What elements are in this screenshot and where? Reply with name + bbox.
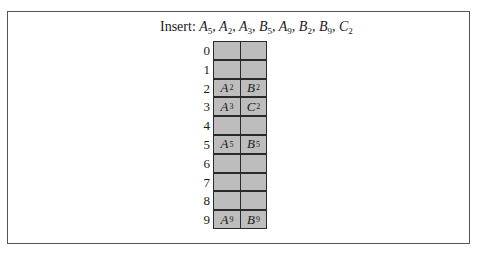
slot-2 [240, 60, 267, 79]
bucket-row: A5B5 [213, 136, 267, 155]
slot-1 [213, 191, 241, 210]
bucket-index: 5 [196, 136, 210, 155]
insert-sequence: A5, A2, A3, B5, A9, B2, B9, C2 [199, 19, 353, 34]
slot-2: C2 [240, 97, 267, 116]
bucket-row [213, 174, 267, 193]
slot-2 [240, 41, 267, 60]
sequence-key: A3, [236, 19, 256, 34]
sequence-key: A2, [216, 19, 236, 34]
slot-2: B2 [240, 79, 267, 98]
bucket-index: 7 [196, 174, 210, 193]
slot-1 [213, 60, 241, 79]
sequence-key: A5, [199, 19, 216, 34]
bucket-index: 6 [196, 155, 210, 174]
slot-1: A9 [213, 210, 241, 229]
sequence-key: B2, [295, 19, 315, 34]
slot-2: B5 [240, 135, 267, 154]
bucket-index: 3 [196, 98, 210, 117]
slot-2 [240, 116, 267, 135]
bucket-row [213, 42, 267, 61]
slot-2 [240, 173, 267, 192]
bucket-index: 4 [196, 117, 210, 136]
bucket-row [213, 192, 267, 211]
hash-table: A2B2A3C2A5B5A9B9 [213, 42, 267, 230]
bucket-index: 0 [196, 42, 210, 61]
sequence-key: B9, [315, 19, 335, 34]
bucket-row [213, 155, 267, 174]
bucket-index: 1 [196, 61, 210, 80]
bucket-row: A2B2 [213, 80, 267, 99]
sequence-key: B5, [255, 19, 275, 34]
slot-2: B9 [240, 210, 267, 229]
bucket-row [213, 61, 267, 80]
sequence-key: A9, [276, 19, 296, 34]
bucket-row [213, 117, 267, 136]
insert-caption: Insert: A5, A2, A3, B5, A9, B2, B9, C2 [160, 19, 353, 36]
slot-1 [213, 173, 241, 192]
slot-1: A2 [213, 79, 241, 98]
bucket-row: A3C2 [213, 98, 267, 117]
slot-1 [213, 41, 241, 60]
slot-2 [240, 191, 267, 210]
slot-1: A3 [213, 97, 241, 116]
bucket-row: A9B9 [213, 211, 267, 230]
bucket-index: 8 [196, 192, 210, 211]
slot-1: A5 [213, 135, 241, 154]
sequence-key: C2 [335, 19, 352, 34]
bucket-index: 2 [196, 80, 210, 99]
slot-1 [213, 154, 241, 173]
slot-1 [213, 116, 241, 135]
slot-2 [240, 154, 267, 173]
insert-label: Insert: [160, 19, 196, 34]
bucket-index: 9 [196, 211, 210, 230]
